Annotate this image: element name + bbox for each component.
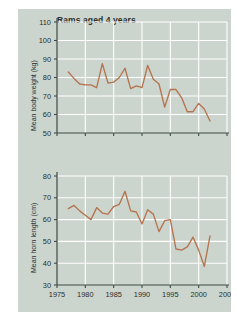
- x-axis-tick-label: 1980: [77, 290, 93, 299]
- y-axis-tick-label: 80: [43, 172, 51, 181]
- y-axis-tick-label: 50: [43, 129, 51, 138]
- y-axis-tick-label: 60: [43, 215, 51, 224]
- data-line-mean-body-weight: [68, 64, 210, 121]
- y-axis-tick-label: 30: [43, 281, 51, 290]
- y-axis-tick-label: 70: [43, 193, 51, 202]
- chart-mean-body-weight: Rams aged 4 years Mean body weight (kg) …: [18, 9, 231, 151]
- x-axis-tick-label: 1990: [134, 290, 150, 299]
- x-axis-tick-label: 2005: [219, 290, 231, 299]
- y-axis-tick-label: 60: [43, 110, 51, 119]
- y-axis-tick-label: 90: [43, 55, 51, 64]
- chart-mean-horn-length: Mean horn length (cm) 304050607080197519…: [18, 151, 231, 312]
- plot-canvas-body-weight: 5060708090100110: [18, 9, 231, 151]
- y-axis-tick-label: 40: [43, 259, 51, 268]
- clipped-caption-strip: [0, 0, 237, 9]
- x-axis-tick-label: 2000: [190, 290, 206, 299]
- data-line-mean-horn-length: [68, 191, 210, 266]
- y-axis-tick-label: 80: [43, 73, 51, 82]
- y-axis-tick-label: 100: [39, 36, 51, 45]
- x-axis-tick-label: 1985: [105, 290, 121, 299]
- x-axis-tick-label: 1995: [162, 290, 178, 299]
- figure-root: Rams aged 4 years Mean body weight (kg) …: [0, 0, 237, 316]
- chart-plate: Rams aged 4 years Mean body weight (kg) …: [18, 9, 231, 312]
- y-axis-tick-label: 110: [39, 18, 51, 27]
- x-axis-tick-label: 1975: [49, 290, 65, 299]
- y-axis-tick-label: 70: [43, 92, 51, 101]
- plot-canvas-horn-length: 3040506070801975198019851990199520002005: [18, 151, 231, 312]
- y-axis-tick-label: 50: [43, 237, 51, 246]
